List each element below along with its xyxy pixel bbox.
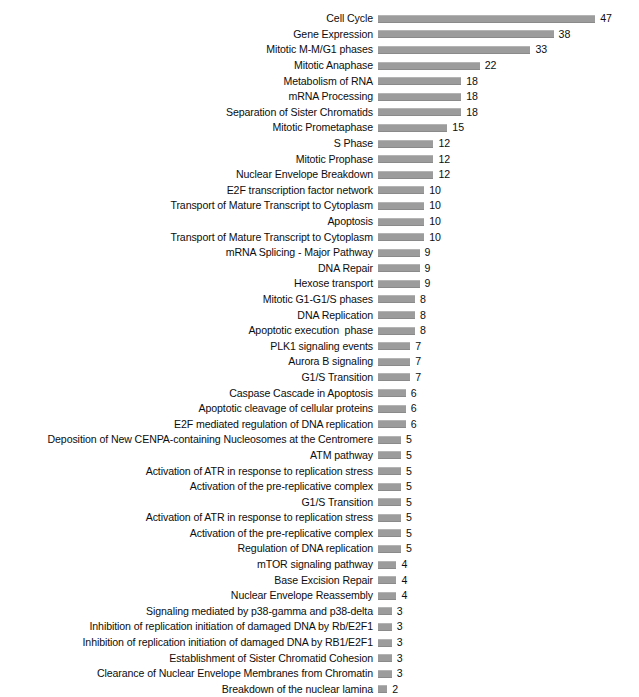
category-label: Apoptosis [0,216,378,227]
bar-value-label: 18 [461,91,478,102]
bar [378,93,461,101]
category-label: Apoptotic cleavage of cellular proteins [0,403,378,414]
bar [378,529,401,537]
bar-track: 6 [378,385,639,401]
bar-value-label: 10 [424,185,441,196]
bar-row: Mitotic G1-G1/S phases8 [0,292,639,308]
bar [378,15,595,23]
bar-row: Inhibition of replication initiation of … [0,619,639,635]
bar-value-label: 5 [401,466,412,477]
bar-track: 6 [378,401,639,417]
bar [378,514,401,522]
bar [378,327,415,335]
bar-value-label: 5 [401,481,412,492]
bar-value-label: 8 [415,310,426,321]
bar-row: mTOR signaling pathway4 [0,557,639,573]
category-label: Activation of ATR in response to replica… [0,466,378,477]
bar [378,264,420,272]
category-label: Apoptotic execution phase [0,325,378,336]
bar-row: Mitotic Anaphase22 [0,58,639,74]
category-label: Mitotic Anaphase [0,60,378,71]
category-label: G1/S Transition [0,372,378,383]
bar-track: 22 [378,58,639,74]
bar-row: Base Excision Repair4 [0,572,639,588]
bar [378,295,415,303]
bar-track: 33 [378,42,639,58]
bar-value-label: 9 [420,278,431,289]
bar [378,373,410,381]
bar [378,685,387,693]
bar-row: Transport of Mature Transcript to Cytopl… [0,198,639,214]
bar-value-label: 5 [401,512,412,523]
bar-track: 8 [378,307,639,323]
bar-value-label: 2 [387,684,398,695]
bar-track: 3 [378,604,639,620]
bar-row: Deposition of New CENPA-containing Nucle… [0,432,639,448]
bar [378,186,424,194]
bar [378,623,392,631]
bar-track: 10 [378,183,639,199]
category-label: Establishment of Sister Chromatid Cohesi… [0,653,378,664]
bar [378,311,415,319]
bar [378,436,401,444]
category-label: Base Excision Repair [0,575,378,586]
category-label: Cell Cycle [0,13,378,24]
bar-row: Hexose transport9 [0,276,639,292]
category-label: G1/S Transition [0,497,378,508]
bar-row: mRNA Splicing - Major Pathway9 [0,245,639,261]
bar-row: Nuclear Envelope Reassembly4 [0,588,639,604]
bar-row: S Phase12 [0,136,639,152]
bar-value-label: 5 [401,543,412,554]
bar-track: 10 [378,214,639,230]
bar-row: ATM pathway5 [0,448,639,464]
bar-row: Aurora B signaling7 [0,354,639,370]
bar [378,498,401,506]
bar-value-label: 4 [396,590,407,601]
bar-track: 38 [378,27,639,43]
bar-row: Gene Expression38 [0,27,639,43]
bar-track: 18 [378,73,639,89]
bar-row: Signaling mediated by p38-gamma and p38-… [0,604,639,620]
bar [378,545,401,553]
bar [378,30,554,38]
bar-row: Apoptotic execution phase8 [0,323,639,339]
category-label: DNA Replication [0,310,378,321]
bar [378,218,424,226]
bar-row: Mitotic Prometaphase15 [0,120,639,136]
bar-track: 3 [378,666,639,682]
bar-track: 4 [378,588,639,604]
bar-value-label: 4 [396,559,407,570]
category-label: Nuclear Envelope Breakdown [0,169,378,180]
bar [378,420,406,428]
bar-track: 8 [378,292,639,308]
bar-value-label: 6 [406,388,417,399]
bar-value-label: 18 [461,76,478,87]
category-label: Gene Expression [0,29,378,40]
bar-row: Regulation of DNA replication5 [0,541,639,557]
bar-value-label: 12 [433,138,450,149]
bar-row: E2F transcription factor network10 [0,183,639,199]
category-label: Inhibition of replication initiation of … [0,637,378,648]
bar [378,561,396,569]
category-label: mTOR signaling pathway [0,559,378,570]
category-label: Separation of Sister Chromatids [0,107,378,118]
bar-value-label: 5 [401,450,412,461]
category-label: Activation of ATR in response to replica… [0,512,378,523]
bar [378,46,530,54]
bar-track: 7 [378,354,639,370]
bar-row: Separation of Sister Chromatids18 [0,105,639,121]
bar-value-label: 38 [554,29,571,40]
bar [378,607,392,615]
category-label: E2F transcription factor network [0,185,378,196]
category-label: Signaling mediated by p38-gamma and p38-… [0,606,378,617]
bar-row: Metabolism of RNA18 [0,73,639,89]
bar [378,155,433,163]
bar [378,249,420,257]
bar [378,140,433,148]
category-label: Nuclear Envelope Reassembly [0,590,378,601]
bar [378,280,420,288]
category-label: PLK1 signaling events [0,341,378,352]
bar-row: G1/S Transition5 [0,494,639,510]
bar-track: 5 [378,448,639,464]
